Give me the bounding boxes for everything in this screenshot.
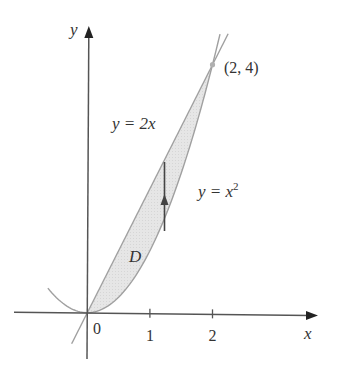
x-axis-label: x (303, 324, 312, 343)
region-label-d: D (128, 247, 142, 266)
parabola-equation-label: y = x2 (196, 180, 239, 201)
intersection-point-marker (210, 62, 215, 67)
x-axis-arrowhead-icon (306, 311, 318, 320)
origin-label: 0 (93, 320, 101, 337)
line-equation-label: y = 2x (110, 114, 156, 133)
parabola-exponent: 2 (233, 180, 239, 192)
tick-label-1: 1 (146, 327, 154, 344)
y-axis-arrowhead-icon (84, 26, 93, 38)
region-d-diagram: y x 0 1 2 (2, 4) D y = 2x y = x2 (0, 0, 341, 381)
intersection-point-label: (2, 4) (224, 59, 259, 77)
x-axis (14, 312, 310, 315)
y-axis-label: y (68, 20, 78, 39)
parabola-equation-text: y = x (196, 182, 234, 201)
diagram-canvas: y x 0 1 2 (2, 4) D y = 2x y = x2 (0, 0, 341, 381)
tick-label-2: 2 (209, 327, 217, 344)
